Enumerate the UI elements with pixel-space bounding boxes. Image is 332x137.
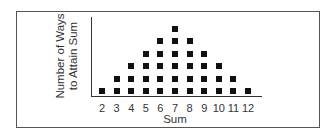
data-point	[172, 88, 178, 94]
data-point	[216, 76, 222, 82]
data-point	[245, 88, 251, 94]
data-point	[172, 38, 178, 44]
data-point	[128, 76, 134, 82]
data-point	[157, 76, 163, 82]
data-point	[187, 76, 193, 82]
data-point	[201, 51, 207, 57]
y-axis-label-line-2: to Attain Sum	[67, 13, 80, 98]
x-tick-label: 10	[213, 102, 225, 114]
data-point	[157, 63, 163, 69]
data-point	[143, 88, 149, 94]
x-tick-label: 6	[157, 102, 163, 114]
data-point	[114, 88, 120, 94]
x-tick-label: 4	[128, 102, 134, 114]
data-point	[143, 76, 149, 82]
data-point	[201, 63, 207, 69]
x-axis-line	[91, 96, 262, 97]
data-point	[230, 88, 236, 94]
data-point	[172, 76, 178, 82]
data-point	[230, 76, 236, 82]
data-point	[172, 51, 178, 57]
x-tick-label: 8	[187, 102, 193, 114]
x-tick-label: 5	[143, 102, 149, 114]
data-point	[128, 63, 134, 69]
x-tick-label: 9	[201, 102, 207, 114]
y-axis-label-line-1: Number of Ways	[54, 13, 67, 98]
y-axis-line	[91, 17, 92, 97]
x-tick-label: 2	[99, 102, 105, 114]
data-point	[114, 76, 120, 82]
x-tick-label: 3	[114, 102, 120, 114]
data-point	[157, 51, 163, 57]
data-point	[172, 63, 178, 69]
data-point	[143, 63, 149, 69]
x-tick-label: 12	[242, 102, 254, 114]
data-point	[99, 88, 105, 94]
data-point	[143, 51, 149, 57]
data-point	[128, 88, 134, 94]
data-point	[187, 63, 193, 69]
x-tick-label: 7	[172, 102, 178, 114]
data-point	[201, 76, 207, 82]
data-point	[216, 63, 222, 69]
data-point	[187, 51, 193, 57]
x-axis-label: Sum	[163, 113, 187, 125]
data-point	[187, 38, 193, 44]
data-point	[216, 88, 222, 94]
data-point	[157, 38, 163, 44]
x-tick-label: 11	[228, 102, 239, 114]
y-axis-label: Number of Ways to Attain Sum	[54, 13, 80, 98]
data-point	[157, 88, 163, 94]
data-point	[172, 26, 178, 32]
data-point	[187, 88, 193, 94]
data-point	[201, 88, 207, 94]
